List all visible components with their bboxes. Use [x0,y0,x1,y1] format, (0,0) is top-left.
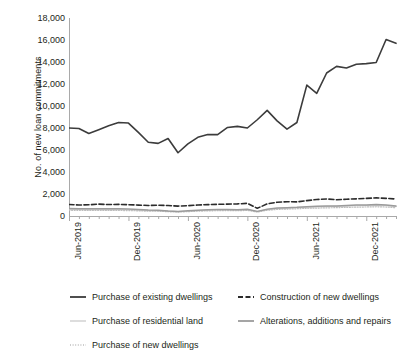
chart-page: No. of new loan commitments 18,00016,000… [0,0,407,358]
x-axis-tick-label: Jun-2019 [73,222,83,260]
legend-column: Purchase of existing dwellingsPurchase o… [70,285,238,357]
x-axis-tick-label: Dec-2019 [132,222,142,261]
legend-item[interactable]: Purchase of residential land [70,309,238,333]
legend-item[interactable]: Construction of new dwellings [238,285,403,309]
legend-line-swatch [238,316,254,326]
legend-label: Purchase of existing dwellings [92,293,213,302]
x-axis-tick-label: Jun-2021 [311,222,321,260]
legend-item[interactable]: Alterations, additions and repairs [238,309,403,333]
x-axis-tick-label: Dec-2021 [370,222,380,261]
legend-item[interactable]: Purchase of existing dwellings [70,285,238,309]
legend-line-swatch [70,316,86,326]
legend-label: Alterations, additions and repairs [260,317,391,326]
x-axis-tick-label: Dec-2020 [251,222,261,261]
legend-label: Construction of new dwellings [260,293,379,302]
legend-line-swatch [70,340,86,350]
legend-item[interactable]: Purchase of new dwellings [70,333,238,357]
legend-line-swatch [70,292,86,302]
legend-label: Purchase of residential land [92,317,203,326]
legend-column: Construction of new dwellingsAlterations… [238,285,403,333]
x-axis-tick-label: Jun-2020 [192,222,202,260]
legend-label: Purchase of new dwellings [92,341,199,350]
legend-line-swatch [238,292,254,302]
